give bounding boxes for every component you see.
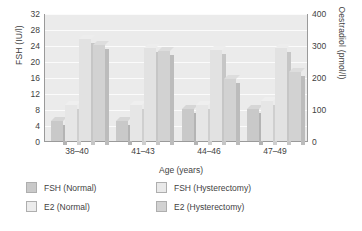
y-tick-right: 400 xyxy=(312,10,326,19)
bar xyxy=(116,121,128,141)
bar-slot xyxy=(130,105,142,141)
x-axis-tick-labels: 38–4041–4344–4647–49 xyxy=(44,146,308,156)
y-tick-right: 300 xyxy=(312,42,326,51)
legend-item: E2 (Hysterectomy) xyxy=(156,201,316,212)
bar-slot xyxy=(79,39,91,141)
bar-slot xyxy=(116,121,128,141)
bar-slot xyxy=(65,105,77,141)
bar-group xyxy=(45,14,111,141)
bar xyxy=(275,48,287,141)
y-tick-left: 12 xyxy=(31,90,40,99)
bar-slot xyxy=(210,50,222,141)
legend-swatch-icon xyxy=(26,201,37,212)
y-axis-right-title: Oestradiol (pmol/l) xyxy=(337,0,347,103)
bar-slot xyxy=(144,48,156,141)
bar-slot xyxy=(182,109,194,141)
bar xyxy=(79,39,91,141)
legend-item: FSH (Normal) xyxy=(26,182,156,193)
bar xyxy=(65,105,77,141)
bar-slot xyxy=(224,79,236,141)
y-tick-right: 200 xyxy=(312,74,326,83)
bar-group xyxy=(242,14,308,141)
bar-slot xyxy=(275,48,287,141)
y-tick-left: 32 xyxy=(31,10,40,19)
y-tick-left: 24 xyxy=(31,42,40,51)
bar-slot xyxy=(289,72,301,141)
y-tick-left: 28 xyxy=(31,26,40,35)
chart-figure: FSH (IU/l) Oestradiol (pmol/l) 048121620… xyxy=(0,0,362,231)
bar xyxy=(210,50,222,141)
legend-item: E2 (Normal) xyxy=(26,201,156,212)
y-tick-left: 4 xyxy=(35,122,40,131)
bar-slot xyxy=(247,109,259,141)
x-axis-title: Age (years) xyxy=(0,165,362,175)
bar-slot xyxy=(51,121,63,141)
y-tick-left: 0 xyxy=(35,138,40,147)
bar xyxy=(289,72,301,141)
y-tick-right: 0 xyxy=(312,138,317,147)
x-tick-label: 47–49 xyxy=(242,146,308,156)
bar xyxy=(247,109,259,141)
bar-slot xyxy=(93,45,105,141)
bar-slot xyxy=(261,101,273,141)
legend-label: FSH (Hysterectomy) xyxy=(174,183,251,193)
bar xyxy=(130,105,142,141)
bar-groups xyxy=(45,14,307,141)
bar xyxy=(182,109,194,141)
y-tick-left: 20 xyxy=(31,58,40,67)
y-tick-left: 8 xyxy=(35,106,40,115)
bar xyxy=(144,48,156,141)
x-tick-label: 41–43 xyxy=(110,146,176,156)
chart-legend: FSH (Normal)FSH (Hysterectomy)E2 (Normal… xyxy=(26,182,326,212)
bar xyxy=(51,121,63,141)
bar-group xyxy=(176,14,242,141)
bar-slot xyxy=(158,51,170,141)
bar xyxy=(224,79,236,141)
y-axis-right-ticks: 0100200300400 xyxy=(312,14,336,142)
bar xyxy=(93,45,105,141)
legend-label: FSH (Normal) xyxy=(44,183,96,193)
x-tick-label: 38–40 xyxy=(44,146,110,156)
legend-label: E2 (Hysterectomy) xyxy=(174,202,244,212)
bar xyxy=(196,105,208,141)
legend-item: FSH (Hysterectomy) xyxy=(156,182,316,193)
bar-group xyxy=(111,14,177,141)
legend-swatch-icon xyxy=(26,182,37,193)
legend-swatch-icon xyxy=(156,201,167,212)
y-axis-left-ticks: 048121620242832 xyxy=(16,14,40,142)
bar xyxy=(261,101,273,141)
plot-area xyxy=(44,14,308,142)
y-tick-left: 16 xyxy=(31,74,40,83)
legend-swatch-icon xyxy=(156,182,167,193)
bar xyxy=(158,51,170,141)
bar-slot xyxy=(196,105,208,141)
y-tick-right: 100 xyxy=(312,106,326,115)
legend-label: E2 (Normal) xyxy=(44,202,90,212)
x-tick-label: 44–46 xyxy=(176,146,242,156)
